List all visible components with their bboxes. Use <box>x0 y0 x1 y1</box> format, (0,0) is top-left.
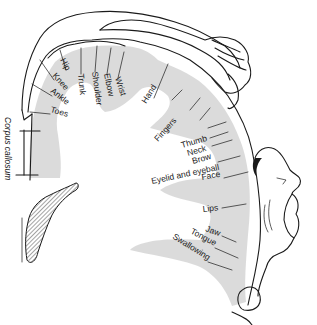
label-trunk: Trunk <box>76 73 88 96</box>
homunculus-diagram: Hip Knee Ankle Toes Trunk Shoulder Elbow… <box>0 0 317 325</box>
label-corpus-callosum: Corpus callosum <box>3 117 13 180</box>
label-lips: Lips <box>202 202 219 214</box>
lateral-ventricle <box>22 183 78 262</box>
